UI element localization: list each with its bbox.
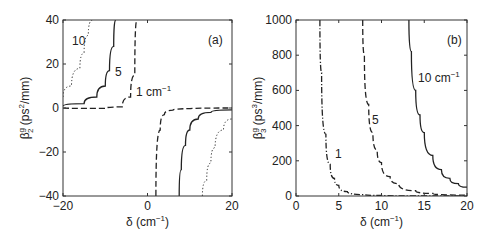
series-label: 5 bbox=[115, 65, 122, 79]
x-tick-label: 0 bbox=[293, 199, 300, 213]
series-line-1-cm- bbox=[156, 108, 232, 196]
y-axis-label: βg2 (ps2/mm) bbox=[17, 77, 35, 140]
series-line-1-cm- bbox=[320, 20, 467, 196]
series-label: 10 bbox=[72, 34, 86, 48]
x-tick-label: 5 bbox=[335, 199, 342, 213]
x-tick-label: 0 bbox=[144, 199, 151, 213]
series-line-5-cm- bbox=[63, 20, 116, 106]
y-axis-label: βg3 (ps3/mm) bbox=[250, 77, 268, 140]
x-tick-label: 20 bbox=[225, 199, 239, 213]
panel-b: 1510 cm−10510152002004006008001000(b)δ (… bbox=[250, 13, 474, 229]
series-line-10-cm- bbox=[202, 119, 232, 196]
y-tick-label: 0 bbox=[285, 189, 292, 203]
series-label: 1 cm−1 bbox=[136, 84, 172, 99]
y-tick-label: 400 bbox=[272, 119, 292, 133]
x-tick-label: 15 bbox=[418, 199, 432, 213]
panel-label: (b) bbox=[447, 33, 462, 47]
series-label: 1 bbox=[335, 147, 342, 161]
series-line-5-cm- bbox=[179, 110, 232, 196]
x-axis-label: δ (cm−1) bbox=[126, 214, 169, 229]
panel-label: (a) bbox=[208, 33, 223, 47]
panel-a: 1 cm−1510−20020−40−2002040(a)δ (cm−1)βg2… bbox=[17, 13, 239, 229]
y-tick-label: −20 bbox=[39, 145, 60, 159]
y-tick-label: −40 bbox=[39, 189, 60, 203]
y-tick-label: 0 bbox=[52, 101, 59, 115]
series-label: 5 bbox=[372, 113, 379, 127]
y-tick-label: 40 bbox=[46, 13, 60, 27]
x-axis-label: δ (cm−1) bbox=[360, 214, 403, 229]
y-tick-label: 20 bbox=[46, 57, 60, 71]
y-tick-label: 200 bbox=[272, 154, 292, 168]
series-line-10-cm- bbox=[63, 20, 93, 97]
figure: 1 cm−1510−20020−40−2002040(a)δ (cm−1)βg2… bbox=[0, 0, 491, 242]
x-tick-label: 10 bbox=[375, 199, 389, 213]
y-tick-label: 800 bbox=[272, 48, 292, 62]
y-tick-label: 600 bbox=[272, 83, 292, 97]
y-tick-label: 1000 bbox=[265, 13, 292, 27]
series-label: 10 cm−1 bbox=[418, 70, 460, 85]
x-tick-label: 20 bbox=[460, 199, 474, 213]
